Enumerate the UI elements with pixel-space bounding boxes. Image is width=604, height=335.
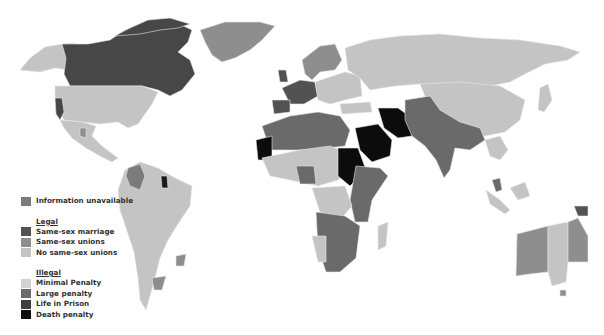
region-argentina-south [152,276,166,290]
region-russia [345,34,580,90]
legend-swatch [21,279,31,288]
region-japan [538,84,552,112]
legend-heading-illegal: Illegal [36,268,133,278]
region-southeast-asia [485,136,508,160]
legend-swatch [21,238,31,247]
region-tasmania [560,290,566,296]
region-australia-west [516,226,548,276]
region-mexico [60,120,118,162]
region-guyana [161,176,168,188]
region-madagascar [378,222,388,250]
region-australia-east [568,218,588,262]
legend-label: Same-sex marriage [36,227,114,237]
region-namibia [312,236,326,262]
legend-label: Death penalty [36,310,93,320]
region-spain [272,100,290,114]
legend-swatch [21,289,31,298]
legend-swatch [21,248,31,257]
legend-label: No same-sex unions [36,248,117,258]
region-borneo [510,182,530,200]
legend-swatch [21,227,31,236]
region-turkey [340,102,372,114]
legend-item-life-in-prison: Life in Prison [21,299,133,310]
legend-item-large-penalty: Large penalty [21,289,133,300]
legend-swatch [21,310,31,319]
legend-item-death-penalty: Death penalty [21,310,133,321]
legend-item-same-sex-marriage: Same-sex marriage [21,227,133,238]
legend-item-no-same-sex-unions: No same-sex unions [21,248,133,259]
region-indonesia [486,190,510,214]
legend-label: Same-sex unions [36,237,105,247]
region-east-africa [350,166,388,222]
legend-label: Minimal Penalty [36,278,101,288]
region-north-africa [262,112,350,150]
legend: Information unavailable Legal Same-sex m… [21,196,133,320]
region-uk [278,70,288,82]
region-scandinavia [302,44,342,80]
legend-item-same-sex-unions: Same-sex unions [21,237,133,248]
legend-heading-legal: Legal [36,217,133,227]
legend-label: Information unavailable [36,196,133,206]
region-greenland [200,22,275,62]
legend-item-info-unavailable: Information unavailable [21,196,133,207]
region-brazil-south [176,254,186,266]
region-eastern-europe [315,72,362,104]
region-malaysia [492,178,502,192]
legend-label: Large penalty [36,289,92,299]
legend-item-minimal-penalty: Minimal Penalty [21,278,133,289]
region-australia-central [548,222,568,286]
region-png [574,206,588,216]
region-mexico-city [80,128,86,138]
legend-swatch [21,197,31,206]
legend-label: Life in Prison [36,299,89,309]
legend-swatch [21,300,31,309]
